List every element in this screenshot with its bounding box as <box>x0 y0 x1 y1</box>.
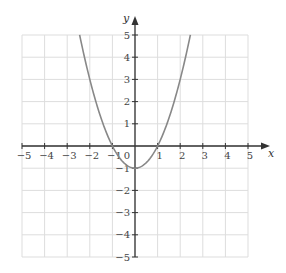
x-tick-label: −1 <box>107 150 122 161</box>
x-tick-label: 2 <box>179 150 185 161</box>
y-tick-label: −5 <box>115 252 130 263</box>
y-tick-label: −2 <box>115 185 130 196</box>
y-tick-label: 2 <box>124 96 130 107</box>
x-tick-label: 5 <box>247 150 253 161</box>
x-axis-label: x <box>268 147 275 160</box>
x-tick-label: −3 <box>62 150 77 161</box>
x-tick-label: −5 <box>17 150 32 161</box>
y-tick-label: −3 <box>115 207 130 218</box>
x-tick-label: 0 <box>124 150 130 161</box>
x-tick-label: 4 <box>224 150 230 161</box>
y-tick-label: 4 <box>124 52 130 63</box>
y-tick-label: 1 <box>124 118 130 129</box>
y-tick-label: −1 <box>115 163 130 174</box>
y-tick-label: 3 <box>124 74 130 85</box>
coordinate-plane: −5−4−3−2−1012345−5−4−3−2−112345 x y <box>0 0 286 273</box>
y-tick-label: −4 <box>115 229 130 240</box>
x-tick-label: 1 <box>156 150 162 161</box>
x-tick-label: −4 <box>39 150 54 161</box>
y-axis-arrow-icon <box>132 16 139 25</box>
x-tick-label: −2 <box>84 150 99 161</box>
y-axis-label: y <box>122 12 130 25</box>
axes <box>22 16 270 257</box>
y-tick-label: 5 <box>124 30 130 41</box>
x-tick-label: 3 <box>202 150 208 161</box>
